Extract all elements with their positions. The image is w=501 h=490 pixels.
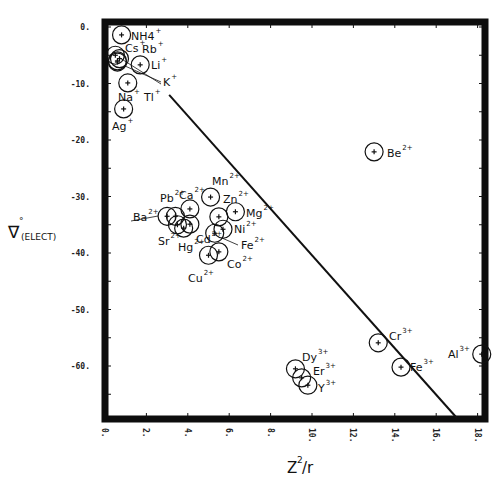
y-axis-title: ∇ ° (ELECT) [7,216,56,242]
ion-charge: 2+ [212,230,222,238]
ion-charge: 2+ [402,144,412,152]
ion-charge: 2+ [229,172,239,180]
x-axis-title-tail: /r [302,459,314,477]
ion-charge: 2+ [242,255,252,263]
ion-label: Ag [112,120,127,133]
ion-label: Al [448,348,459,361]
y-tick-label: -10. [71,80,90,89]
ion-charge: 2+ [263,204,273,212]
ion-charge: 3+ [424,358,434,366]
ion-label: Pb [160,192,174,205]
data-point [200,246,218,264]
ion-charge: + [134,88,140,96]
x-tick-label: 12. [348,428,357,442]
ion-label: Hg [178,241,193,254]
data-point [392,358,410,376]
data-point [210,243,228,261]
x-tick-label: 2. [141,428,150,438]
y-tick-label: -50. [71,306,90,315]
ion-charge: + [156,27,162,35]
ion-label: Be [387,147,402,160]
y-tick-label: -30. [71,193,90,202]
y-tick-label: -60. [71,362,90,371]
ion-label: Er [313,365,325,378]
ion-charge: 3+ [402,327,412,335]
ion-charge: 2+ [239,190,249,198]
ion-label: Fe [241,239,254,252]
scatter-chart: 0.-10.-20.-30.-40.-50.-60. 0.2.4.6.8.10.… [0,0,501,490]
y-tick-label: -40. [71,249,90,258]
x-tick-label: 8. [266,428,275,438]
ion-charge: 2+ [255,236,265,244]
y-axis-title-sub: (ELECT) [21,232,56,242]
x-tick-label: 16. [431,428,440,442]
ion-charge: 3+ [326,379,336,387]
ion-charge: 3+ [325,362,335,370]
ion-label: Zn [223,193,238,206]
ion-label: Cd [196,233,211,246]
data-point [365,143,383,161]
data-point [369,334,387,352]
ion-label: Na [118,91,133,104]
x-tick-label: 18. [473,428,482,442]
ion-charge: + [158,40,164,48]
ion-label: Dy [302,351,317,364]
ion-label: Cr [389,330,402,343]
ion-label: Ca [179,189,193,202]
ion-charge: 2+ [171,232,181,240]
ion-charge: 2+ [246,220,256,228]
ion-charge: 3+ [460,345,470,353]
ion-label: Li [151,59,160,72]
x-tick-label: 4. [183,428,192,438]
x-tick-label: 10. [307,428,316,442]
x-tick-label: 6. [224,428,233,438]
ion-label: Tl [143,91,154,104]
ion-charge: 2+ [194,186,204,194]
x-axis-title: Z 2 /r [287,455,314,477]
x-tick-label: 14. [390,428,399,442]
ion-label: Sr [158,235,170,248]
ion-charge: + [171,73,177,81]
ion-label: Fe [410,361,423,374]
ion-label: Mn [212,175,228,188]
ion-label: Ba [133,211,147,224]
ion-charge: + [155,88,161,96]
y-tick-labels: 0.-10.-20.-30.-40.-50.-60. [71,23,90,371]
ion-label: Cu [188,272,203,285]
ion-charge: 3+ [318,348,328,356]
ion-label: Cs [125,42,139,55]
y-tick-label: -20. [71,136,90,145]
y-axis-title-sup: ° [19,216,24,226]
ion-charge: 2+ [148,208,158,216]
data-point [210,208,228,226]
ion-label: Y [317,382,325,395]
x-axis-title-main: Z [287,459,297,477]
ion-label: Co [227,258,242,271]
ion-charge: + [161,56,167,64]
data-point [299,376,317,394]
ion-charge: 2+ [204,269,214,277]
ion-label: Ni [234,223,245,236]
x-tick-label: 0. [100,428,109,438]
leader-line [222,238,238,245]
point-labels: NH4+Cs+Rb+Li+K+Na+Tl+Ag+Be2+Mn2+Pb2+Ca2+… [112,27,470,395]
x-tick-labels: 0.2.4.6.8.10.12.14.16.18. [100,428,482,442]
ion-label: Mg [246,207,262,220]
ion-label: Rb [142,43,157,56]
y-tick-label: 0. [80,23,90,32]
ion-charge: + [128,117,134,125]
ion-label: K [163,76,171,89]
